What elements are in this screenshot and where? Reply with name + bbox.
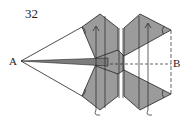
shaded-flap-right-bottom [124,70,171,110]
fold-illustration [0,0,191,126]
narrow-point-a [21,58,108,66]
kite-outline-bottom [21,61,82,96]
origami-step-diagram: 32 A B [0,0,191,126]
shaded-flap-right-top [124,14,171,56]
kite-outline-top [21,27,82,61]
